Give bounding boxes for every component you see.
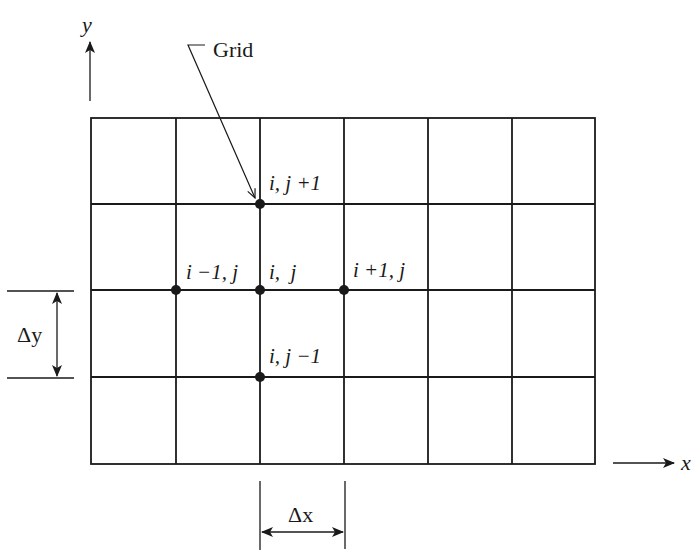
node-center [255,285,265,295]
x-axis-label: x [680,450,691,475]
node-top [255,199,265,209]
delta-y-dimension: Δy [7,291,74,378]
node-label-top: i, j +1 [269,171,321,195]
y-axis: y [80,12,92,101]
callout-leader-line [188,45,255,198]
callout-label: Grid [213,37,253,62]
finite-difference-grid-diagram: y x Grid i, j +1 i −1, j i, j i +1, j i,… [0,0,700,557]
x-axis: x [613,450,691,475]
node-label-center: i, j [269,260,297,284]
node-right [339,285,349,295]
y-axis-label: y [80,12,92,37]
node-label-left: i −1, j [186,260,238,284]
node-label-right: i +1, j [353,258,405,282]
node-left [171,285,181,295]
delta-y-label: Δy [17,322,42,347]
node-label-bottom: i, j −1 [269,344,321,368]
node-bottom [255,372,265,382]
node-labels: i, j +1 i −1, j i, j i +1, j i, j −1 [186,171,405,368]
delta-x-label: Δx [288,502,313,527]
delta-x-dimension: Δx [260,481,345,550]
